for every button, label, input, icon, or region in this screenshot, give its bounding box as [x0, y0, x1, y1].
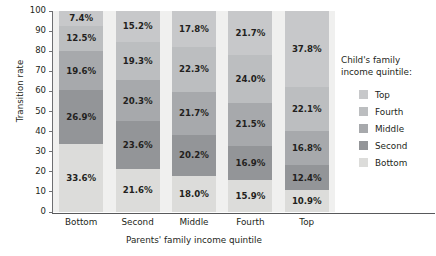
- bar-segment-label: 33.6%: [59, 173, 103, 183]
- bar-segment: 15.9%: [228, 180, 272, 212]
- bar-segment: 21.7%: [228, 11, 272, 55]
- bar-segment-label: 19.3%: [116, 56, 160, 66]
- bar-column: 15.2%19.3%20.3%23.6%21.6%: [116, 11, 160, 212]
- bar-segment-label: 15.9%: [228, 191, 272, 201]
- legend-items: TopFourthMiddleSecondBottom: [359, 86, 433, 171]
- bar-segment: 20.2%: [172, 135, 216, 176]
- bar-segment: 33.6%: [59, 144, 103, 212]
- y-axis-tick-label: 10: [0, 186, 46, 198]
- bar-segment: 37.8%: [285, 11, 329, 87]
- bar-segment-label: 37.8%: [285, 44, 329, 54]
- bar-segment-label: 21.7%: [228, 28, 272, 38]
- bar-segment-label: 12.4%: [285, 173, 329, 183]
- y-axis-title: Transition rate: [15, 11, 25, 171]
- legend: Child's family income quintile: TopFourt…: [341, 55, 433, 171]
- bar-segment-label: 18.0%: [172, 189, 216, 199]
- legend-swatch-icon: [359, 141, 368, 150]
- bar-segment-label: 19.6%: [59, 66, 103, 76]
- legend-item[interactable]: Bottom: [359, 154, 433, 171]
- legend-swatch-icon: [359, 158, 368, 167]
- bar-segment-label: 21.6%: [116, 185, 160, 195]
- legend-swatch-icon: [359, 90, 368, 99]
- bar-segment-label: 15.2%: [116, 21, 160, 31]
- legend-item-label: Middle: [375, 124, 404, 134]
- bar-column: 37.8%22.1%16.8%12.4%10.9%: [285, 11, 329, 212]
- bar-segment: 23.6%: [116, 121, 160, 168]
- bar-segment: 24.0%: [228, 55, 272, 103]
- y-axis-tick-mark: [49, 191, 53, 192]
- bar-segment: 17.8%: [172, 11, 216, 47]
- bar-segment: 12.5%: [59, 26, 103, 51]
- y-axis-tick-mark: [49, 171, 53, 172]
- legend-swatch-icon: [359, 124, 368, 133]
- legend-title: Child's family income quintile:: [341, 55, 433, 78]
- y-axis-tick-mark: [49, 31, 53, 32]
- bar-column: 7.4%12.5%19.6%26.9%33.6%: [59, 11, 103, 212]
- legend-item-label: Top: [375, 90, 390, 100]
- bar-segment-label: 20.2%: [172, 150, 216, 160]
- bar-column: 21.7%24.0%21.5%16.9%15.9%: [228, 11, 272, 212]
- legend-item[interactable]: Top: [359, 86, 433, 103]
- bar-segment: 7.4%: [59, 11, 103, 26]
- y-axis-tick-mark: [49, 131, 53, 132]
- bar-segment-label: 20.3%: [116, 96, 160, 106]
- bar-segment-label: 23.6%: [116, 140, 160, 150]
- bar-segment: 16.9%: [228, 146, 272, 180]
- y-axis-tick-mark: [49, 51, 53, 52]
- bar-segment: 21.5%: [228, 103, 272, 146]
- x-axis-title: Parents' family income quintile: [53, 235, 335, 245]
- x-axis-tick-label: Top: [267, 217, 347, 227]
- bar-segment: 12.4%: [285, 165, 329, 190]
- y-axis-tick-label: 0: [0, 206, 46, 218]
- bar-segment: 21.6%: [116, 169, 160, 212]
- bar-segment-label: 17.8%: [172, 24, 216, 34]
- y-axis-tick-mark: [49, 91, 53, 92]
- y-axis-tick-mark: [49, 71, 53, 72]
- bar-segment-label: 21.5%: [228, 119, 272, 129]
- y-axis-tick-mark: [49, 151, 53, 152]
- bar-segment: 26.9%: [59, 90, 103, 144]
- bar-segment: 16.8%: [285, 131, 329, 165]
- bar-segment-label: 16.9%: [228, 158, 272, 168]
- legend-item[interactable]: Middle: [359, 120, 433, 137]
- y-axis-tick-mark: [49, 111, 53, 112]
- y-axis-tick-mark: [49, 11, 53, 12]
- bar-segment-label: 22.1%: [285, 104, 329, 114]
- bar-segment-label: 10.9%: [285, 196, 329, 206]
- bar-segment: 10.9%: [285, 190, 329, 212]
- legend-item-label: Second: [375, 141, 407, 151]
- bar-segment: 15.2%: [116, 11, 160, 42]
- chart-figure: 0102030405060708090100 Transition rate 7…: [0, 0, 436, 256]
- bar-segment-label: 21.7%: [172, 108, 216, 118]
- bar-segment: 21.7%: [172, 92, 216, 136]
- bar-segment: 22.3%: [172, 47, 216, 92]
- bar-segment: 19.6%: [59, 51, 103, 90]
- legend-item[interactable]: Second: [359, 137, 433, 154]
- bar-segment: 18.0%: [172, 176, 216, 212]
- bar-segment: 20.3%: [116, 80, 160, 121]
- bar-segment-label: 24.0%: [228, 74, 272, 84]
- bar-segment-label: 26.9%: [59, 112, 103, 122]
- bar-segment-label: 12.5%: [59, 33, 103, 43]
- y-axis-line: [52, 11, 53, 213]
- x-axis-line: [52, 213, 435, 214]
- legend-item[interactable]: Fourth: [359, 103, 433, 120]
- legend-swatch-icon: [359, 107, 368, 116]
- bar-segment-label: 16.8%: [285, 143, 329, 153]
- bar-segment-label: 7.4%: [59, 13, 103, 23]
- bar-column: 17.8%22.3%21.7%20.2%18.0%: [172, 11, 216, 212]
- bar-segment-label: 22.3%: [172, 64, 216, 74]
- legend-item-label: Bottom: [375, 158, 407, 168]
- bar-segment: 19.3%: [116, 42, 160, 81]
- legend-item-label: Fourth: [375, 107, 403, 117]
- bar-segment: 22.1%: [285, 87, 329, 131]
